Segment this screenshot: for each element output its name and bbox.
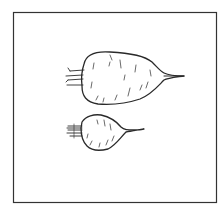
frame-border xyxy=(14,13,217,203)
small-root xyxy=(67,115,144,150)
large-root-texture xyxy=(91,55,151,102)
large-root-body xyxy=(82,52,184,104)
small-root-body xyxy=(81,115,144,150)
root-illustration xyxy=(0,0,222,214)
large-root xyxy=(66,52,184,104)
small-root-stems xyxy=(67,124,82,138)
small-root-texture xyxy=(87,120,114,147)
